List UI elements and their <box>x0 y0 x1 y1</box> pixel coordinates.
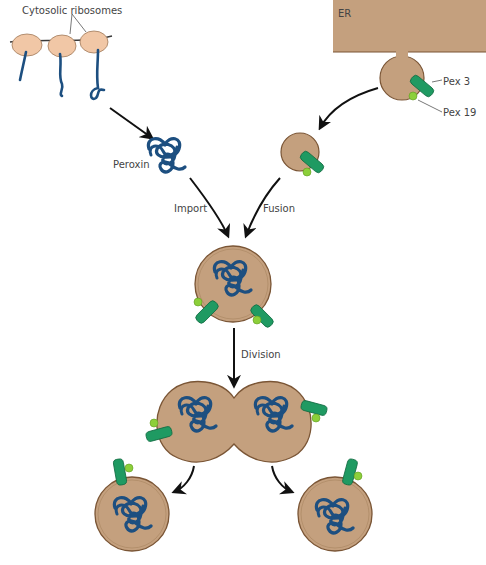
daughter-peroxisome-left <box>95 458 169 551</box>
label-peroxin: Peroxin <box>113 160 150 170</box>
cytosolic-ribosomes <box>10 14 112 99</box>
label-er: ER <box>338 9 351 19</box>
label-pex19: Pex 19 <box>443 108 476 118</box>
label-cytosolic-ribosomes: Cytosolic ribosomes <box>22 6 122 16</box>
mature-peroxisome <box>194 246 275 329</box>
daughter-peroxisome-right <box>298 458 372 551</box>
label-division: Division <box>241 350 281 360</box>
peroxin-protein <box>148 139 185 172</box>
pre-peroxisomal-vesicle <box>281 133 325 176</box>
label-fusion: Fusion <box>263 204 295 214</box>
label-import: Import <box>174 204 207 214</box>
label-pex3: Pex 3 <box>443 77 470 87</box>
dividing-peroxisome <box>145 382 328 462</box>
peroxisome-biogenesis-diagram: Cytosolic ribosomes ER Pex 3 Pex 19 Pero… <box>0 0 486 565</box>
